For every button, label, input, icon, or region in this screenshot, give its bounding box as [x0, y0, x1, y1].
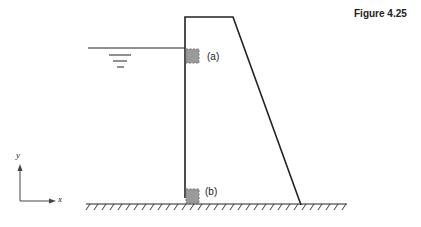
point-b-label: (b)	[205, 186, 217, 197]
dam-outline	[185, 17, 301, 205]
x-axis-label: x	[58, 194, 62, 204]
ground-hatching	[86, 204, 346, 210]
element-a	[186, 49, 199, 63]
y-axis-arrowhead	[18, 164, 23, 171]
coordinate-axes	[18, 164, 57, 204]
x-axis-arrowhead	[49, 199, 56, 204]
figure-label: Figure 4.25	[354, 8, 407, 19]
y-axis-label: y	[16, 150, 20, 160]
element-b	[186, 189, 199, 203]
point-a-label: (a)	[207, 51, 219, 62]
